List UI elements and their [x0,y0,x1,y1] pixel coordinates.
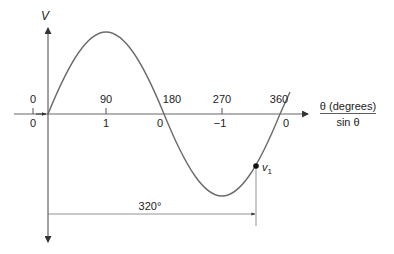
sine-wave-diagram: V 0 0 90 1 180 0 270 −1 360 0 θ (degrees… [0,0,394,254]
x-axis-label-degrees: θ (degrees) [320,101,376,112]
tick-label-deg-180: 180 [163,94,181,105]
tick-label-deg-0: 0 [30,94,36,105]
v1-label: v1 [262,162,272,176]
tick-label-deg-360: 360 [270,94,288,105]
diagram-canvas [0,0,394,254]
y-axis-label: V [41,10,49,22]
tick-label-deg-90: 90 [100,94,112,105]
tick-label-sin-0: 0 [30,118,36,129]
tick-label-sin-360: 0 [283,118,289,129]
v1-point [253,163,259,169]
x-axis-label-sin: sin θ [336,117,359,128]
tick-label-sin-90: 1 [103,118,109,129]
tick-label-sin-270: −1 [214,118,227,129]
v1-label-subscript: 1 [268,167,272,176]
tick-label-deg-270: 270 [213,94,231,105]
tick-label-sin-180: 0 [157,118,163,129]
dimension-label: 320° [139,201,162,212]
